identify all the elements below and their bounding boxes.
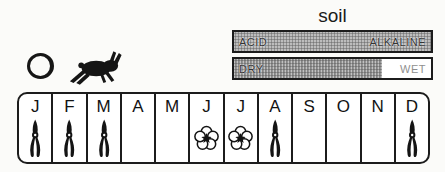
month-label: J (202, 98, 211, 115)
month-icon-box (362, 115, 394, 162)
sun-circle-icon (27, 53, 54, 79)
month-cell: M (88, 94, 122, 162)
flower-icon (193, 125, 220, 152)
month-icon-box (293, 115, 325, 162)
month-icon-box (53, 115, 85, 162)
month-icon-box (156, 115, 188, 162)
pruning-shears-icon (28, 119, 42, 160)
month-label: O (337, 98, 350, 115)
pruning-shears-icon (268, 119, 282, 160)
pruning-shears-icon (97, 119, 111, 160)
month-icon-box (122, 115, 154, 162)
month-cell: F (53, 94, 87, 162)
acid-label: ACID (239, 36, 267, 48)
pruning-shears-icon (62, 119, 76, 160)
month-label: A (132, 98, 143, 115)
month-cell: D (396, 94, 428, 162)
pruning-shears-icon (405, 119, 419, 160)
month-cell: S (293, 94, 327, 162)
month-icon-box (190, 115, 222, 162)
soil-moisture-bar: DRY WET (232, 57, 433, 80)
month-cell: M (156, 94, 190, 162)
dry-label: DRY (239, 63, 264, 75)
month-label: J (236, 98, 245, 115)
month-label: F (64, 98, 74, 115)
month-cell: A (259, 94, 293, 162)
month-cell: J (19, 94, 53, 162)
leaping-hare-icon (69, 50, 127, 87)
soil-section-title: soil (232, 5, 433, 27)
pruning-flowering-calendar: J (17, 92, 430, 164)
month-icon-box (396, 115, 428, 162)
month-icon-box (225, 115, 257, 162)
month-cell: J (190, 94, 224, 162)
month-cell: J (225, 94, 259, 162)
month-label: S (303, 98, 314, 115)
plant-care-diagram: soil ACID ALKALINE DRY WET J (0, 0, 445, 172)
month-cell: A (122, 94, 156, 162)
month-icon-box (88, 115, 120, 162)
month-label: M (97, 98, 111, 115)
month-label: N (371, 98, 383, 115)
month-icon-box (327, 115, 359, 162)
month-icon-box (19, 115, 51, 162)
month-label: D (406, 98, 418, 115)
month-label: A (269, 98, 280, 115)
wet-label: WET (400, 63, 426, 75)
month-cell: O (327, 94, 361, 162)
month-label: J (31, 98, 40, 115)
alkaline-label: ALKALINE (369, 36, 426, 48)
month-icon-box (259, 115, 291, 162)
flower-icon (227, 125, 254, 152)
soil-ph-bar: ACID ALKALINE (232, 30, 433, 53)
month-cell: N (362, 94, 396, 162)
month-label: M (165, 98, 179, 115)
